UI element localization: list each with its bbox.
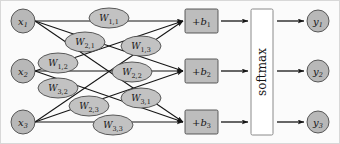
network-diagram: W1,1W2,1W1,3W1,2W2,2W3,2W2,3W3,1W3,3 +b1…: [0, 0, 340, 144]
softmax-block: softmax: [251, 9, 273, 135]
output-node-y2: y2: [307, 60, 329, 82]
weight-node-w11: W1,1: [89, 8, 129, 28]
weight-node-w12: W1,2: [38, 53, 78, 73]
weight-node-w33: W3,3: [93, 115, 133, 135]
weight-node-w22: W2,2: [112, 62, 152, 82]
weight-node-w13: W1,3: [121, 36, 161, 56]
bias-box-b3: +b3: [185, 110, 218, 134]
input-node-x3: x3: [11, 110, 35, 134]
input-node-x1: x1: [11, 9, 35, 33]
output-nodes: y1y2y3: [307, 10, 329, 133]
bias-box-b1: +b1: [185, 9, 218, 33]
input-nodes: x1x2x3: [11, 9, 35, 134]
weight-node-w21: W2,1: [65, 32, 105, 52]
weight-node-w23: W2,3: [69, 96, 109, 116]
weight-node-w32: W3,2: [38, 78, 78, 98]
input-node-x2: x2: [11, 59, 35, 83]
output-node-y3: y3: [307, 111, 329, 133]
weight-node-w31: W3,1: [121, 88, 161, 108]
output-node-y1: y1: [307, 10, 329, 32]
softmax-label: softmax: [255, 48, 269, 96]
bias-boxes: +b1+b2+b3: [185, 9, 218, 134]
diagram-canvas: W1,1W2,1W1,3W1,2W2,2W3,2W2,3W3,1W3,3 +b1…: [1, 1, 340, 144]
bias-box-b2: +b2: [185, 59, 218, 83]
softmax-box: softmax: [251, 9, 273, 135]
